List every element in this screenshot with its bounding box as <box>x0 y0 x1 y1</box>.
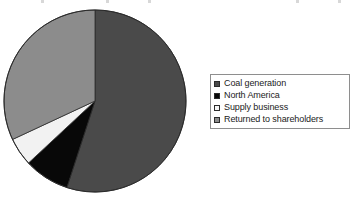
legend-item-supply-business[interactable]: Supply business <box>214 102 345 113</box>
chart-legend: Coal generation North America Supply bus… <box>210 74 350 129</box>
legend-label-supply-business: Supply business <box>224 102 288 113</box>
legend-swatch-supply-business <box>214 105 220 111</box>
scan-artifact-mark <box>296 0 299 3</box>
scan-artifact-mark <box>338 0 341 3</box>
legend-label-returned-to-shareholders: Returned to shareholders <box>224 114 323 125</box>
legend-swatch-coal-generation <box>214 81 220 87</box>
pie-chart-figure: Coal generation North America Supply bus… <box>0 0 357 200</box>
legend-swatch-north-america <box>214 93 220 99</box>
legend-item-north-america[interactable]: North America <box>214 90 345 101</box>
legend-item-coal-generation[interactable]: Coal generation <box>214 78 345 89</box>
legend-label-north-america: North America <box>224 90 280 101</box>
pie-svg <box>0 0 200 200</box>
legend-item-returned-to-shareholders[interactable]: Returned to shareholders <box>214 114 345 125</box>
pie-plot-area <box>0 0 200 200</box>
legend-swatch-returned-to-shareholders <box>214 117 220 123</box>
legend-label-coal-generation: Coal generation <box>224 78 286 89</box>
pie-slice-group <box>4 10 186 192</box>
